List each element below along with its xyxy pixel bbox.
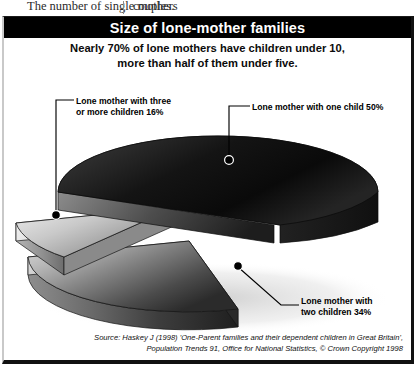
source-line-2: Population Trends 91, Office for Nationa… <box>4 344 403 355</box>
callout-three-line-1: Lone mother with three <box>76 96 211 107</box>
callout-three-or-more-children: Lone mother with three or more children … <box>76 96 211 117</box>
callout-three-line-2: or more children 16% <box>76 107 211 118</box>
callout-one-child: Lone mother with one child 50% <box>252 102 407 113</box>
callout-one-line-1: Lone mother with one child 50% <box>252 102 407 113</box>
figure-page: The number of single mothers couples. Si… <box>0 0 420 369</box>
anchor-dot-two-children <box>234 262 243 271</box>
callout-two-line-1: Lone mother with <box>301 296 411 307</box>
column-rule <box>123 1 124 14</box>
running-text-right: couples. <box>133 0 174 14</box>
running-text: The number of single mothers couples. <box>0 0 420 16</box>
callout-two-children: Lone mother with two children 34% <box>301 296 411 317</box>
anchor-dot-one-child <box>225 156 234 165</box>
source-line-1: Source: Haskey J (1998) 'One-Parent fami… <box>4 333 403 344</box>
callout-two-line-2: two children 34% <box>301 307 411 318</box>
figure-frame: Size of lone-mother families Nearly 70% … <box>2 16 414 364</box>
source-note: Source: Haskey J (1998) 'One-Parent fami… <box>4 333 403 354</box>
anchor-dot-three-or-more <box>52 211 61 220</box>
